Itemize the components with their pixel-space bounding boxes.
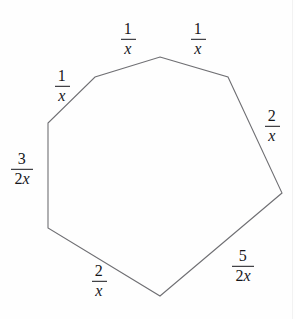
fraction-denominator: x — [192, 40, 203, 57]
label-side-top-left: 1 x — [111, 21, 145, 57]
fraction-numerator: 2 — [266, 108, 278, 125]
fraction-denominator: x — [93, 282, 104, 299]
fraction-denominator: 2x — [233, 267, 252, 284]
denominator-variable: x — [243, 267, 250, 284]
right-edge-hairline — [292, 0, 293, 319]
fraction-numerator: 3 — [16, 151, 28, 168]
fraction-numerator: 1 — [122, 21, 134, 38]
fraction-numerator: 5 — [237, 248, 249, 265]
geometry-figure: 1 x 1 x 1 x 3 2x 2 x 5 2x 2 x — [0, 0, 295, 319]
fraction-numerator: 1 — [56, 68, 68, 85]
fraction-numerator: 2 — [93, 263, 105, 280]
label-side-lower-right: 5 2x — [226, 248, 260, 284]
label-side-top-right: 1 x — [181, 21, 215, 57]
fraction-denominator: x — [266, 127, 277, 144]
label-side-upper-right: 2 x — [255, 108, 289, 144]
fraction-denominator: x — [56, 87, 67, 104]
label-side-upper-left: 1 x — [45, 68, 79, 104]
fraction-numerator: 1 — [192, 21, 204, 38]
label-side-bottom: 2 x — [82, 263, 116, 299]
fraction-denominator: x — [122, 40, 133, 57]
label-side-left: 3 2x — [5, 151, 39, 187]
denominator-variable: x — [22, 170, 29, 187]
fraction-denominator: 2x — [12, 170, 31, 187]
